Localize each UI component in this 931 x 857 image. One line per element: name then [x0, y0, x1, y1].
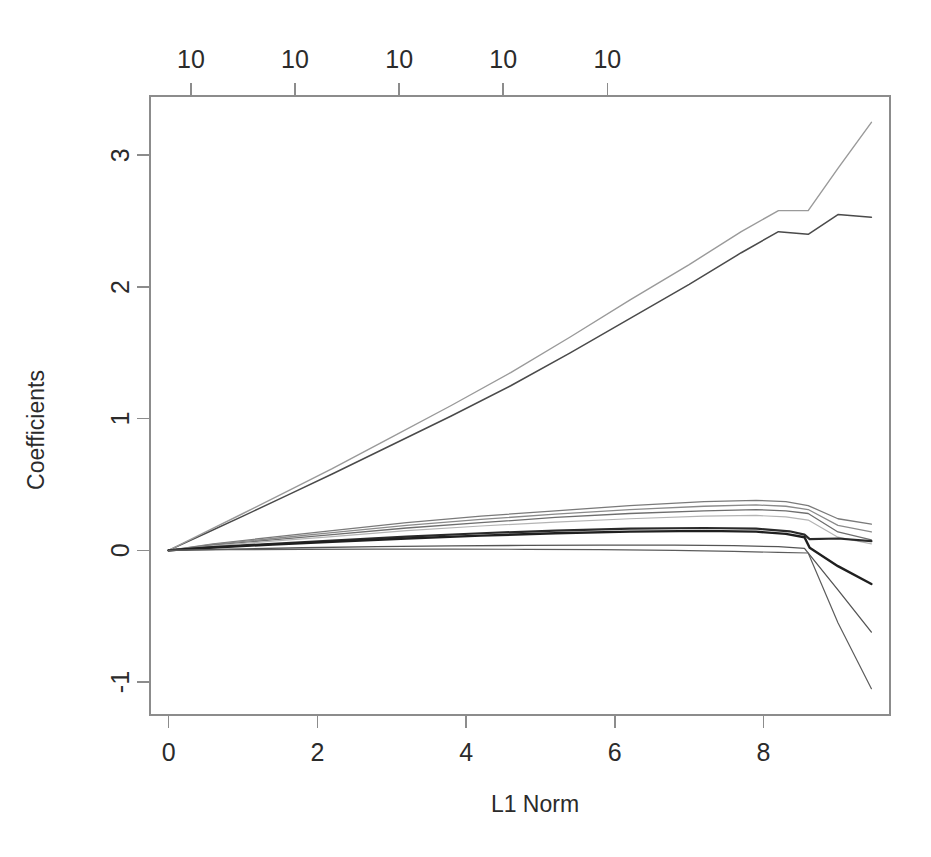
plot-frame	[150, 96, 890, 715]
y-tick-label: 2	[106, 280, 134, 294]
x-tick-label: 2	[310, 738, 324, 766]
coefficient-path	[169, 122, 872, 550]
x-tick-label: 8	[757, 738, 771, 766]
plot-svg: 1010101010 02468 -10123 Coefficients L1 …	[0, 0, 931, 857]
coefficient-path	[169, 215, 872, 551]
y-axis-title: Coefficients	[23, 370, 49, 490]
x-axis-title: L1 Norm	[491, 791, 579, 817]
top-tick-label: 10	[177, 45, 205, 73]
coefficient-path	[169, 545, 872, 632]
top-tick-label: 10	[385, 45, 413, 73]
y-tick-label: 0	[106, 543, 134, 557]
top-tick-label: 10	[281, 45, 309, 73]
y-tick-label: 3	[106, 148, 134, 162]
top-tick-label: 10	[593, 45, 621, 73]
x-tick-label: 6	[608, 738, 622, 766]
y-tick-label: -1	[106, 671, 134, 693]
coefficient-path-plot: 1010101010 02468 -10123 Coefficients L1 …	[0, 0, 931, 857]
bottom-axis: 02468	[162, 715, 771, 766]
x-tick-label: 0	[162, 738, 176, 766]
coefficient-path	[169, 549, 872, 689]
top-tick-label: 10	[489, 45, 517, 73]
y-tick-label: 1	[106, 412, 134, 426]
coefficient-paths	[169, 122, 872, 688]
left-axis: -10123	[106, 148, 150, 693]
top-axis: 1010101010	[177, 45, 621, 96]
x-tick-label: 4	[459, 738, 473, 766]
